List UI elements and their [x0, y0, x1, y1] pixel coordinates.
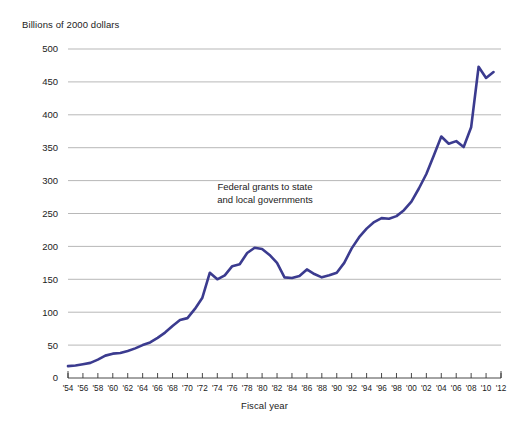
y-axis-tick-label: 500: [42, 43, 58, 54]
x-axis-tick-label: '62: [122, 384, 133, 393]
y-axis-tick-labels: 050100150200250300350400450500: [42, 43, 58, 383]
x-axis-tick-label: '96: [376, 384, 387, 393]
y-axis-tick-label: 400: [42, 109, 58, 120]
x-axis-tick-label: '98: [391, 384, 402, 393]
annotation-line-2: and local governments: [150, 193, 380, 206]
x-axis-tick-labels: '54'56'58'60'62'64'66'68'70'72'74'76'78'…: [63, 384, 507, 393]
x-axis-tick-label: '64: [137, 384, 148, 393]
x-axis-tick-label: '54: [63, 384, 74, 393]
series-line-federal-grants: [68, 67, 494, 366]
y-axis-tick-label: 200: [42, 241, 58, 252]
axis-lines: [68, 371, 501, 378]
x-axis-tick-label: '72: [197, 384, 208, 393]
y-axis-tick-label: 350: [42, 142, 58, 153]
y-axis-tick-label: 450: [42, 76, 58, 87]
x-axis-tick-label: '02: [421, 384, 432, 393]
y-axis-tick-label: 50: [47, 340, 58, 351]
series-annotation-label: Federal grants to state and local govern…: [150, 180, 380, 206]
y-axis-tick-label: 0: [53, 372, 58, 383]
x-axis-tick-label: '94: [361, 384, 372, 393]
annotation-line-1: Federal grants to state: [150, 180, 380, 193]
chart-container: Billions of 2000 dollars 050100150200250…: [0, 0, 529, 428]
x-axis-tick-label: '70: [182, 384, 193, 393]
x-axis-tick-label: '92: [346, 384, 357, 393]
x-axis-tick-label: '76: [227, 384, 238, 393]
x-axis-tick-label: '88: [316, 384, 327, 393]
x-axis-tick-label: '78: [242, 384, 253, 393]
x-axis-tick-label: '58: [93, 384, 104, 393]
x-axis-tick-label: '80: [257, 384, 268, 393]
line-chart-plot: 050100150200250300350400450500 '54'56'58…: [0, 0, 529, 428]
x-axis-tick-label: '82: [272, 384, 283, 393]
x-axis-tick-label: '10: [481, 384, 492, 393]
x-axis-tick-label: '12: [496, 384, 507, 393]
x-axis-tick-label: '66: [152, 384, 163, 393]
data-series-lines: [68, 67, 494, 366]
x-axis-tick-label: '60: [107, 384, 118, 393]
x-axis-tick-label: '86: [302, 384, 313, 393]
y-axis-tick-label: 250: [42, 208, 58, 219]
x-axis-title: Fiscal year: [0, 400, 529, 411]
x-axis-tick-label: '06: [451, 384, 462, 393]
x-axis-tick-label: '90: [331, 384, 342, 393]
x-axis-tick-label: '08: [466, 384, 477, 393]
x-axis-tick-label: '84: [287, 384, 298, 393]
x-axis-tick-marks: [68, 373, 501, 378]
y-axis-tick-label: 150: [42, 274, 58, 285]
x-axis-tick-label: '74: [212, 384, 223, 393]
x-axis-tick-label: '00: [406, 384, 417, 393]
x-axis-tick-label: '56: [78, 384, 89, 393]
x-axis-tick-label: '04: [436, 384, 447, 393]
y-axis-tick-label: 100: [42, 307, 58, 318]
x-axis-tick-label: '68: [167, 384, 178, 393]
y-axis-tick-label: 300: [42, 175, 58, 186]
